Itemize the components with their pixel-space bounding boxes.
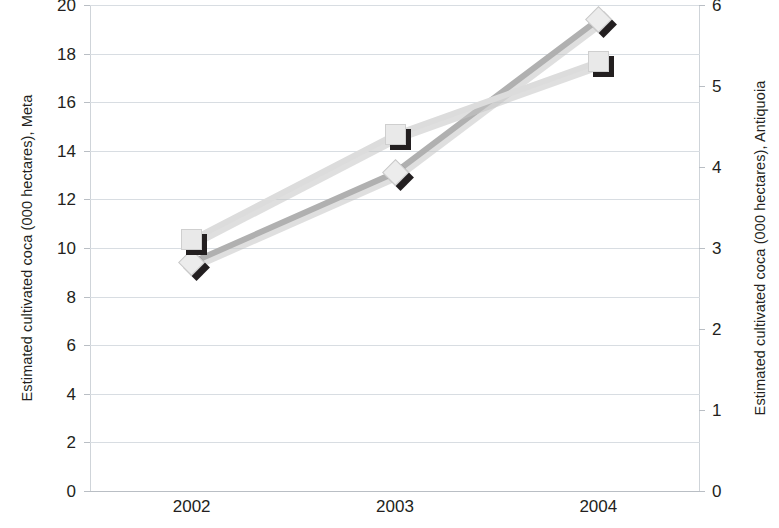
y-tick-label-left: 14 xyxy=(36,143,76,160)
y-tick-label-left: 10 xyxy=(36,240,76,257)
y-tick-label-left: 12 xyxy=(36,191,76,208)
y-tick-label-right: 5 xyxy=(712,78,752,95)
y-tick-label-right: 0 xyxy=(712,483,752,500)
chart-container: Estimated cultivated coca (000 hectares)… xyxy=(0,0,779,528)
y-tick-label-left: 20 xyxy=(36,0,76,14)
y-tick-label-left: 18 xyxy=(36,46,76,63)
x-tick-label: 2003 xyxy=(350,497,440,517)
y-tick-label-right: 1 xyxy=(712,402,752,419)
y-tick-label-left: 8 xyxy=(36,289,76,306)
y-tick-label-right: 6 xyxy=(712,0,752,14)
y-tick-label-left: 4 xyxy=(36,386,76,403)
x-tick-label: 2002 xyxy=(147,497,237,517)
x-axis-labels: 200220032004 xyxy=(90,0,700,528)
y-axis-right-ticks: 6543210 xyxy=(712,0,758,528)
y-tick-label-left: 2 xyxy=(36,434,76,451)
y-tick-label-left: 0 xyxy=(36,483,76,500)
y-axis-left-ticks: 20181614121086420 xyxy=(30,0,76,528)
y-tick-label-right: 4 xyxy=(712,159,752,176)
y-tick-label-right: 3 xyxy=(712,240,752,257)
y-tick-label-left: 6 xyxy=(36,337,76,354)
y-tick-label-left: 16 xyxy=(36,94,76,111)
y-tick-label-right: 2 xyxy=(712,321,752,338)
x-tick-label: 2004 xyxy=(553,497,643,517)
